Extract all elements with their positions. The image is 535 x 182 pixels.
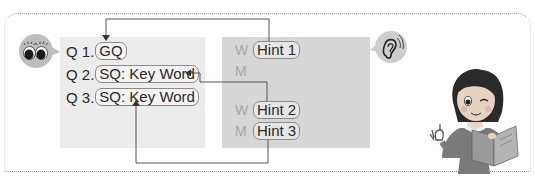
connector-hint3-q3 (136, 106, 268, 163)
arrow-down-icon (102, 35, 110, 41)
connector-hint1-q1 (106, 19, 269, 41)
connector-hint2-q2 (190, 73, 267, 101)
girl-reading-book-illustration (420, 62, 530, 174)
arrow-left-icon (185, 70, 191, 77)
arrow-up-icon (132, 100, 140, 106)
